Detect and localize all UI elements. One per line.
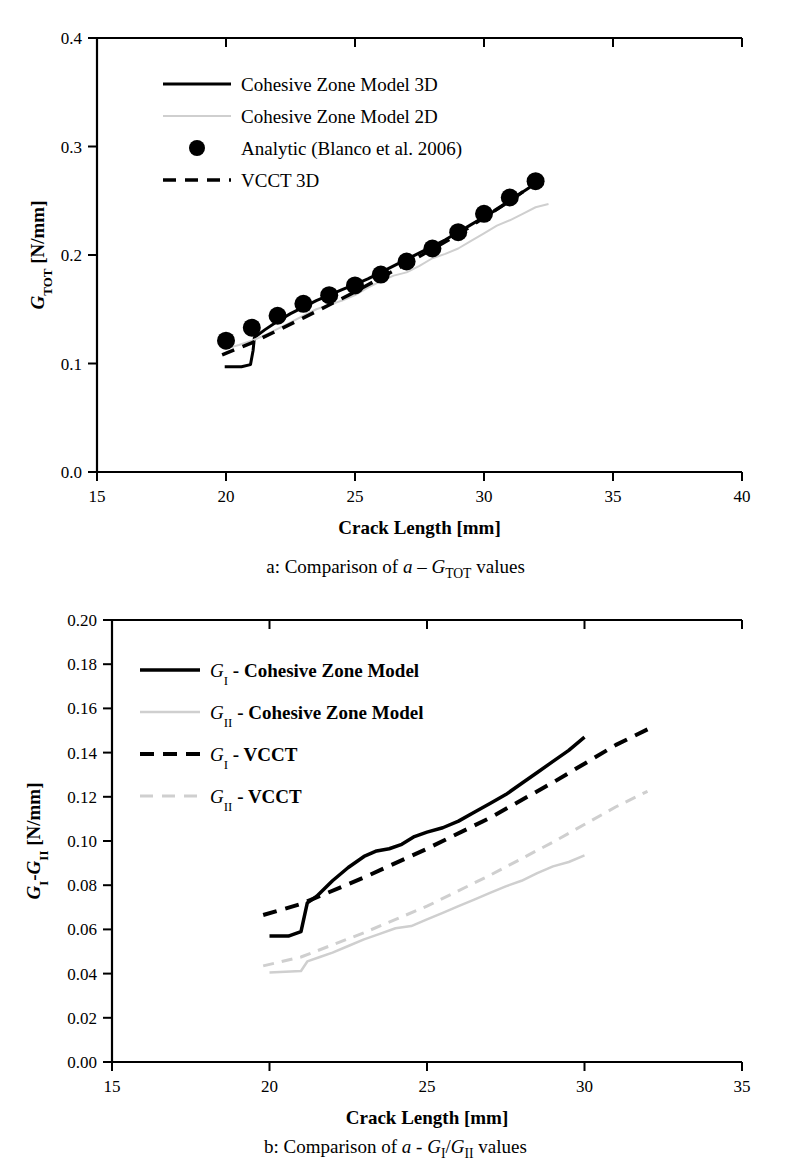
y-tick-label: 0.4 xyxy=(61,29,83,48)
y-axis-title-subscript-2: II xyxy=(36,851,51,861)
y-axis-title-subscript: TOT xyxy=(40,268,55,296)
legend-symbol: G xyxy=(210,786,224,807)
legend-label: GI - Cohesive Zone Model xyxy=(210,660,419,688)
y-tick-label: 0.12 xyxy=(67,788,97,807)
y-axis-title: GTOT [N/mm] xyxy=(27,200,55,309)
chart-panel-a: 1520253035400.00.10.20.30.4Crack Length … xyxy=(0,0,791,600)
y-axis-title-symbol: G xyxy=(27,296,48,310)
y-axis-title-unit: [N/mm] xyxy=(27,200,48,268)
caption-a-suffix: values xyxy=(471,556,524,577)
data-marker xyxy=(423,239,441,257)
legend-symbol: G xyxy=(210,702,224,723)
legend-text: - Cohesive Zone Model xyxy=(232,702,423,723)
data-marker xyxy=(217,332,235,350)
caption-b-symbol-1: G xyxy=(427,1136,441,1157)
y-axis-title-symbol-1: G xyxy=(23,886,44,900)
legend-label: GII - VCCT xyxy=(210,786,302,814)
legend-text: - Cohesive Zone Model xyxy=(228,660,419,681)
y-tick-label: 0.08 xyxy=(67,876,97,895)
y-tick-label: 0.10 xyxy=(67,832,97,851)
y-tick-label: 0.16 xyxy=(67,699,97,718)
data-marker xyxy=(294,295,312,313)
legend-label: Cohesive Zone Model 2D xyxy=(241,106,438,127)
x-axis-title: Crack Length [mm] xyxy=(346,1107,509,1128)
chart-panel-b: 15202530350.000.020.040.060.080.100.120.… xyxy=(0,590,791,1174)
y-tick-label: 0.04 xyxy=(67,965,97,984)
series-group xyxy=(263,729,647,972)
data-marker xyxy=(243,319,261,337)
legend-subscript: II xyxy=(224,799,233,814)
x-tick-label: 15 xyxy=(104,1077,121,1096)
y-tick-label: 0.18 xyxy=(67,655,97,674)
caption-a-mid: – xyxy=(412,556,431,577)
data-line xyxy=(263,791,647,966)
legend-marker xyxy=(189,140,205,156)
y-axis-title-unit: [N/mm] xyxy=(23,782,44,850)
chart-b-svg: 15202530350.000.020.040.060.080.100.120.… xyxy=(0,590,791,1140)
y-tick-label: 0.1 xyxy=(61,355,82,374)
legend-text: - VCCT xyxy=(228,744,298,765)
chart-legend: GI - Cohesive Zone ModelGII - Cohesive Z… xyxy=(140,660,423,814)
legend-label: Cohesive Zone Model 3D xyxy=(241,74,438,95)
data-marker xyxy=(320,286,338,304)
caption-b: b: Comparison of a - GI/GII values xyxy=(0,1136,791,1162)
x-tick-label: 35 xyxy=(734,1077,751,1096)
caption-a-symbol: G xyxy=(431,556,445,577)
legend-subscript: II xyxy=(224,715,233,730)
x-tick-label: 35 xyxy=(605,487,622,506)
caption-b-symbol-2: G xyxy=(451,1136,465,1157)
x-tick-label: 20 xyxy=(218,487,235,506)
chart-a-svg: 1520253035400.00.10.20.30.4Crack Length … xyxy=(0,0,791,560)
legend-label: VCCT 3D xyxy=(241,170,319,191)
y-axis-title-symbol-2: G xyxy=(23,860,44,874)
y-tick-label: 0.02 xyxy=(67,1009,97,1028)
x-tick-label: 25 xyxy=(347,487,364,506)
caption-b-prefix: b: Comparison of xyxy=(264,1136,402,1157)
legend-label: GI - VCCT xyxy=(210,744,298,772)
x-tick-label: 20 xyxy=(261,1077,278,1096)
caption-a: a: Comparison of a – GTOT values xyxy=(0,556,791,582)
data-line xyxy=(270,855,585,972)
caption-b-italic: a xyxy=(402,1136,412,1157)
x-tick-label: 15 xyxy=(89,487,106,506)
legend-symbol: G xyxy=(210,744,224,765)
y-tick-label: 0.00 xyxy=(67,1053,97,1072)
legend-label: Analytic (Blanco et al. 2006) xyxy=(241,138,462,160)
y-tick-label: 0.2 xyxy=(61,246,82,265)
caption-a-prefix: a: Comparison of xyxy=(266,556,403,577)
x-tick-label: 25 xyxy=(419,1077,436,1096)
legend-text: - VCCT xyxy=(232,786,302,807)
x-tick-label: 30 xyxy=(476,487,493,506)
x-tick-label: 30 xyxy=(576,1077,593,1096)
caption-a-subscript: TOT xyxy=(445,566,471,581)
legend-symbol: G xyxy=(210,660,224,681)
series-group xyxy=(217,172,549,367)
data-marker xyxy=(269,307,287,325)
data-marker xyxy=(346,276,364,294)
figure-container: 1520253035400.00.10.20.30.4Crack Length … xyxy=(0,0,791,1174)
y-tick-label: 0.3 xyxy=(61,138,82,157)
x-tick-label: 40 xyxy=(734,487,751,506)
caption-b-suffix: values xyxy=(474,1136,527,1157)
y-tick-label: 0.20 xyxy=(67,611,97,630)
y-tick-label: 0.0 xyxy=(61,463,82,482)
y-axis-title: GI-GII [N/mm] xyxy=(23,782,51,899)
caption-b-subscript-2: II xyxy=(464,1146,473,1161)
y-tick-label: 0.06 xyxy=(67,920,97,939)
chart-legend: Cohesive Zone Model 3DCohesive Zone Mode… xyxy=(163,74,462,191)
y-tick-label: 0.14 xyxy=(67,744,97,763)
legend-label: GII - Cohesive Zone Model xyxy=(210,702,423,730)
caption-b-mid: - xyxy=(411,1136,427,1157)
x-axis-title: Crack Length [mm] xyxy=(338,517,501,538)
caption-a-italic: a xyxy=(403,556,413,577)
